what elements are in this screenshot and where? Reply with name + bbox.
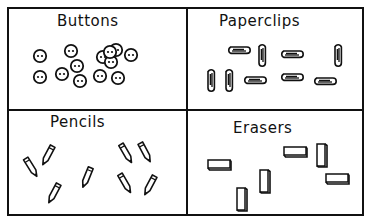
- paperclip-icons: [208, 45, 341, 91]
- pencil-icons: [23, 142, 156, 204]
- eraser-icons: [208, 144, 349, 211]
- figure-illustrations: [0, 0, 367, 222]
- button-icons: [34, 44, 137, 87]
